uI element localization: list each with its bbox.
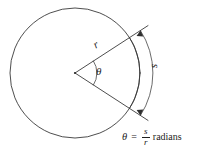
subtended-arc — [130, 38, 140, 109]
radius-ray-lower — [75, 73, 148, 120]
center-vertex-point — [74, 72, 76, 74]
formula-theta: θ — [122, 132, 127, 143]
formula-numerator: s — [143, 127, 149, 137]
radian-measure-figure: r θ s θ = s r radians — [0, 0, 199, 153]
label-angle-theta: θ — [96, 66, 101, 77]
radian-formula: θ = s r radians — [122, 127, 182, 147]
arc-length-measure-line — [140, 31, 153, 116]
label-arc-length-s: s — [148, 64, 159, 69]
radius-ray-upper — [75, 26, 148, 73]
formula-equals-sign: = — [131, 132, 137, 142]
formula-denominator: r — [143, 138, 149, 148]
formula-fraction: s r — [142, 127, 150, 147]
formula-units: radians — [153, 132, 182, 142]
